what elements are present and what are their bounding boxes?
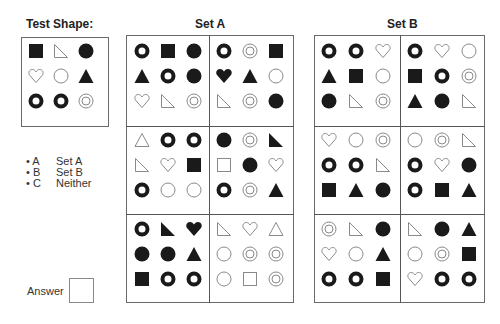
filled-triangle-icon bbox=[460, 181, 478, 199]
filled-square-icon bbox=[27, 42, 45, 60]
outline-heart-icon bbox=[133, 92, 151, 110]
filled-circle-icon bbox=[267, 92, 285, 110]
thick-ring-icon bbox=[159, 131, 177, 149]
filled-circle-icon bbox=[374, 181, 392, 199]
filled-triangle-icon bbox=[133, 67, 151, 85]
filled-square-icon bbox=[374, 270, 392, 288]
outline-right-triangle-icon bbox=[347, 92, 365, 110]
filled-circle-icon bbox=[460, 156, 478, 174]
outline-square-icon bbox=[241, 270, 259, 288]
outline-right-triangle-icon bbox=[347, 220, 365, 238]
filled-triangle-icon bbox=[460, 220, 478, 238]
thick-ring-icon bbox=[460, 270, 478, 288]
double-circle-icon bbox=[320, 220, 338, 238]
thick-ring-icon bbox=[215, 42, 233, 60]
answer-input[interactable] bbox=[69, 278, 94, 303]
outline-circle-icon bbox=[347, 245, 365, 263]
thick-ring-icon bbox=[133, 220, 151, 238]
filled-triangle-icon bbox=[347, 181, 365, 199]
option-key: • C bbox=[26, 178, 56, 189]
double-circle-icon bbox=[241, 245, 259, 263]
filled-circle-icon bbox=[320, 92, 338, 110]
double-circle-icon bbox=[433, 131, 451, 149]
outline-heart-icon bbox=[374, 42, 392, 60]
filled-heart-icon bbox=[215, 67, 233, 85]
double-circle-icon bbox=[241, 181, 259, 199]
thick-ring-icon bbox=[320, 270, 338, 288]
filled-square-icon bbox=[320, 181, 338, 199]
outline-triangle-icon bbox=[133, 131, 151, 149]
outline-circle-icon bbox=[347, 131, 365, 149]
outline-right-triangle-icon bbox=[52, 42, 70, 60]
answer-options: • ASet A • BSet B • CNeither bbox=[26, 156, 91, 189]
outline-heart-icon bbox=[241, 220, 259, 238]
set-b-divider bbox=[400, 35, 401, 303]
double-circle-icon bbox=[241, 131, 259, 149]
outline-right-triangle-icon bbox=[133, 156, 151, 174]
outline-heart-icon bbox=[433, 156, 451, 174]
option-c[interactable]: • CNeither bbox=[26, 178, 91, 189]
double-circle-icon bbox=[267, 270, 285, 288]
thick-ring-icon bbox=[215, 181, 233, 199]
filled-triangle-icon bbox=[241, 67, 259, 85]
thick-ring-icon bbox=[185, 270, 203, 288]
thick-ring-icon bbox=[133, 181, 151, 199]
filled-circle-icon bbox=[185, 67, 203, 85]
outline-right-triangle-icon bbox=[159, 92, 177, 110]
outline-circle-icon bbox=[159, 181, 177, 199]
thick-ring-icon bbox=[347, 42, 365, 60]
set-b-title: Set B bbox=[387, 17, 418, 31]
thick-ring-icon bbox=[320, 156, 338, 174]
thick-ring-icon bbox=[27, 92, 45, 110]
filled-circle-icon bbox=[215, 131, 233, 149]
double-circle-icon bbox=[241, 92, 259, 110]
outline-circle-icon bbox=[52, 67, 70, 85]
outline-circle-icon bbox=[406, 131, 424, 149]
outline-circle-icon bbox=[267, 67, 285, 85]
option-label: Neither bbox=[56, 178, 91, 189]
filled-square-icon bbox=[267, 42, 285, 60]
outline-right-triangle-icon bbox=[215, 92, 233, 110]
filled-right-triangle-icon bbox=[267, 131, 285, 149]
set-a-divider bbox=[126, 126, 294, 127]
outline-circle-icon bbox=[215, 245, 233, 263]
double-circle-icon bbox=[374, 92, 392, 110]
outline-heart-icon bbox=[320, 131, 338, 149]
set-a-title: Set A bbox=[195, 17, 225, 31]
outline-square-icon bbox=[215, 156, 233, 174]
filled-circle-icon bbox=[77, 42, 95, 60]
filled-circle-icon bbox=[133, 245, 151, 263]
outline-heart-icon bbox=[159, 156, 177, 174]
set-a-divider bbox=[126, 214, 294, 215]
outline-heart-icon bbox=[320, 245, 338, 263]
double-circle-icon bbox=[77, 92, 95, 110]
outline-right-triangle-icon bbox=[374, 156, 392, 174]
filled-triangle-icon bbox=[374, 245, 392, 263]
thick-ring-icon bbox=[433, 270, 451, 288]
thick-ring-icon bbox=[433, 67, 451, 85]
filled-circle-icon bbox=[159, 245, 177, 263]
outline-circle-icon bbox=[374, 67, 392, 85]
outline-triangle-icon bbox=[267, 220, 285, 238]
filled-circle-icon bbox=[433, 220, 451, 238]
outline-circle-icon bbox=[185, 181, 203, 199]
filled-square-icon bbox=[460, 245, 478, 263]
filled-triangle-icon bbox=[185, 245, 203, 263]
outline-right-triangle-icon bbox=[406, 220, 424, 238]
filled-square-icon bbox=[347, 67, 365, 85]
filled-circle-icon bbox=[374, 220, 392, 238]
test-shape-title: Test Shape: bbox=[26, 17, 93, 31]
filled-square-icon bbox=[185, 156, 203, 174]
filled-square-icon bbox=[159, 42, 177, 60]
filled-square-icon bbox=[133, 270, 151, 288]
filled-circle-icon bbox=[185, 42, 203, 60]
thick-ring-icon bbox=[406, 42, 424, 60]
answer-label: Answer bbox=[27, 285, 64, 297]
thick-ring-icon bbox=[406, 181, 424, 199]
outline-right-triangle-icon bbox=[460, 131, 478, 149]
thick-ring-icon bbox=[133, 42, 151, 60]
set-b-divider bbox=[314, 126, 485, 127]
outline-circle-icon bbox=[215, 270, 233, 288]
outline-circle-icon bbox=[460, 42, 478, 60]
set-a-divider bbox=[209, 35, 210, 303]
